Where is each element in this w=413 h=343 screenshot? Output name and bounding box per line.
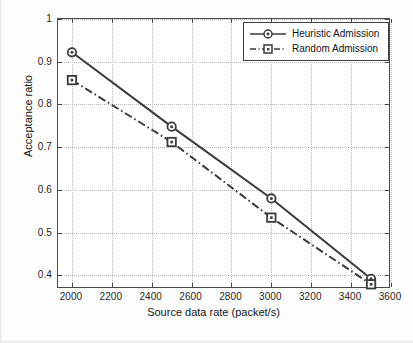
y-tick-label: 1	[46, 13, 52, 24]
data-point-marker	[68, 48, 76, 56]
data-point-marker	[367, 280, 375, 288]
data-point-marker	[167, 122, 175, 130]
series-line-2	[72, 80, 371, 284]
x-tick-label: 3000	[259, 291, 282, 302]
y-tick-label: 0.8	[38, 98, 52, 109]
x-tick-label: 3400	[339, 291, 362, 302]
x-axis-label: Source data rate (packet/s)	[0, 306, 413, 318]
scan-edge-left	[0, 0, 3, 343]
scan-edge-bottom	[0, 339, 413, 343]
x-tick-label: 3200	[299, 291, 322, 302]
legend-label-random: Random Admission	[288, 43, 378, 54]
x-tick-mark	[391, 283, 392, 287]
x-tick-label: 2400	[139, 291, 162, 302]
y-tick-label: 0.6	[38, 183, 52, 194]
legend-sample-random-line-square	[248, 42, 288, 56]
x-tick-label: 2600	[179, 291, 202, 302]
gridline-vertical	[391, 19, 392, 287]
plot-area: Heuristic Admission Random Admission	[57, 18, 390, 288]
x-tick-label: 2200	[100, 291, 123, 302]
y-tick-label: 0.7	[38, 141, 52, 152]
x-tick-label: 3600	[379, 291, 402, 302]
y-axis-label: Acceptance ratio	[22, 36, 34, 196]
y-tick-label: 0.9	[38, 55, 52, 66]
y-tick-label: 0.5	[38, 226, 52, 237]
legend-item-random[interactable]: Random Admission	[248, 41, 384, 56]
data-point-marker	[267, 194, 275, 202]
x-tick-label: 2800	[219, 291, 242, 302]
data-point-marker	[167, 138, 175, 146]
legend-item-heuristic[interactable]: Heuristic Admission	[248, 26, 384, 41]
legend-sample-heuristic-line-circle	[248, 27, 288, 41]
figure-canvas: Acceptance ratio Source data rate (packe…	[0, 0, 413, 343]
data-point-marker	[267, 213, 275, 221]
y-tick-label: 0.4	[38, 269, 52, 280]
series-line-1	[72, 52, 371, 278]
data-point-marker	[68, 76, 76, 84]
legend: Heuristic Admission Random Admission	[243, 22, 389, 61]
x-tick-mark	[391, 19, 392, 23]
x-tick-label: 2000	[60, 291, 83, 302]
x-axis-label-text: Source data rate (packet/s)	[147, 306, 280, 318]
legend-label-heuristic: Heuristic Admission	[288, 28, 379, 39]
